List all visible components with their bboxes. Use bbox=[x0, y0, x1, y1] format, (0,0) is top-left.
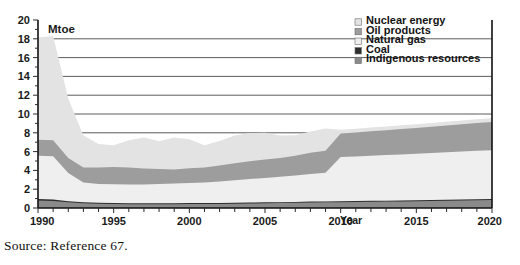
y-tick-label: 18 bbox=[18, 33, 30, 45]
legend-swatch bbox=[355, 28, 361, 34]
x-axis-title: Year bbox=[340, 214, 362, 226]
y-tick-label: 8 bbox=[24, 127, 30, 139]
x-tick-label: 2005 bbox=[253, 215, 277, 227]
legend-swatch bbox=[355, 57, 361, 63]
x-tick-label: 1990 bbox=[30, 215, 54, 227]
y-tick-label: 6 bbox=[24, 146, 30, 158]
stacked-area-chart: 02468101214161820 1990199520002005201020… bbox=[0, 0, 520, 232]
source-caption: Source: Reference 67. bbox=[4, 238, 128, 254]
y-tick-label: 20 bbox=[18, 14, 30, 26]
y-tick-label: 12 bbox=[18, 89, 30, 101]
x-tick-label: 2000 bbox=[177, 215, 201, 227]
legend-swatch bbox=[355, 19, 361, 25]
x-tick-labels: 1990199520002005201020152020 bbox=[30, 215, 502, 227]
chart-area: 02468101214161820 1990199520002005201020… bbox=[0, 0, 520, 232]
y-tick-label: 14 bbox=[18, 70, 31, 82]
x-tick-label: 2015 bbox=[404, 215, 428, 227]
x-tick-label: 1995 bbox=[101, 215, 125, 227]
y-tick-label: 10 bbox=[18, 108, 30, 120]
legend-swatch bbox=[355, 38, 361, 44]
figure-container: 02468101214161820 1990199520002005201020… bbox=[0, 0, 520, 265]
y-tick-label: 16 bbox=[18, 52, 30, 64]
unit-label: Mtoe bbox=[48, 23, 75, 35]
legend-label: Indigenous resources bbox=[366, 52, 480, 64]
y-tick-marks bbox=[33, 20, 38, 208]
y-tick-labels: 02468101214161820 bbox=[18, 14, 31, 214]
x-tick-label: 2020 bbox=[478, 215, 502, 227]
y-tick-label: 0 bbox=[24, 202, 30, 214]
y-tick-label: 4 bbox=[24, 164, 31, 176]
legend-swatch bbox=[355, 48, 361, 54]
y-tick-label: 2 bbox=[24, 183, 30, 195]
